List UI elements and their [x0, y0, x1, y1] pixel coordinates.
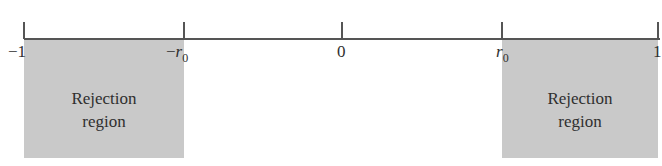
- rejection-region-right: Rejection region: [502, 39, 658, 158]
- region-label-line1: Rejection: [502, 87, 658, 110]
- tick-value: 1: [653, 42, 662, 61]
- tick-subscript: 0: [182, 51, 188, 65]
- tick-value: 1: [18, 42, 27, 61]
- tick-label-neg-r0: −r0: [166, 42, 188, 68]
- tick-label-zero: 0: [337, 42, 346, 62]
- rejection-region-right-label: Rejection region: [502, 87, 658, 133]
- region-label-line1: Rejection: [24, 87, 184, 110]
- tick-value: r: [496, 42, 503, 61]
- tick-label-one: 1: [653, 42, 662, 62]
- region-label-line2: region: [24, 110, 184, 133]
- tick-label-neg-one: −1: [8, 42, 26, 62]
- tick-neg-one: [23, 22, 25, 39]
- rejection-region-left-label: Rejection region: [24, 87, 184, 133]
- minus-sign: −: [166, 42, 176, 61]
- tick-neg-r0: [183, 22, 185, 39]
- tick-value: 0: [337, 42, 346, 61]
- tick-zero: [341, 22, 343, 39]
- tick-one: [657, 22, 659, 39]
- tick-subscript: 0: [503, 51, 509, 65]
- tick-r0: [501, 22, 503, 39]
- rejection-region-left: Rejection region: [24, 39, 184, 158]
- region-label-line2: region: [502, 110, 658, 133]
- minus-sign: −: [8, 42, 18, 61]
- tick-label-r0: r0: [496, 42, 509, 68]
